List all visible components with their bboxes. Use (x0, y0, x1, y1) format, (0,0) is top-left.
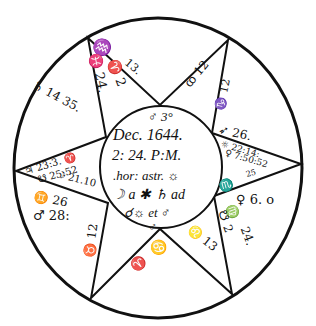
label-mars-28: ♂ 28: (33, 208, 70, 223)
center-conj: ☌☼ et ♂ (124, 205, 171, 220)
label-cancer: ♋ (150, 239, 167, 256)
label-leo-13: ♌ 13 (185, 222, 220, 254)
label-gemini-26: ♊ 26 (33, 189, 69, 210)
label-saturn-1435: ♄ 14 35. (30, 78, 83, 115)
center-mars-bottom: ♂ (148, 220, 157, 234)
label-25: 25 (245, 168, 257, 179)
center-mars-top: ♂ 3° (148, 109, 173, 124)
label-capricorn-12: ♑ 12 (214, 78, 233, 112)
center-aspect: ☽ a ✱ ♄ ad (112, 187, 186, 202)
label-taurus-12: ♉ 12 (82, 223, 101, 259)
center-time: 2: 24. P:M. (112, 147, 181, 163)
label-aries-b: ♈ (128, 253, 150, 275)
label-sagittarius-12: ꭃ 12 (182, 57, 212, 89)
horoscope-diagram: ♂ 3° Dec. 1644. 2: 24. P:M. .hor: astr. … (0, 0, 316, 326)
label-24-br: 24. (238, 225, 258, 248)
label-venus-6: ♀ 6. o (236, 192, 274, 207)
center-hor: .hor: astr. ☼ (113, 168, 179, 183)
label-scorpio: ♏ (217, 177, 235, 194)
center-date: Dec. 1644. (112, 126, 183, 143)
